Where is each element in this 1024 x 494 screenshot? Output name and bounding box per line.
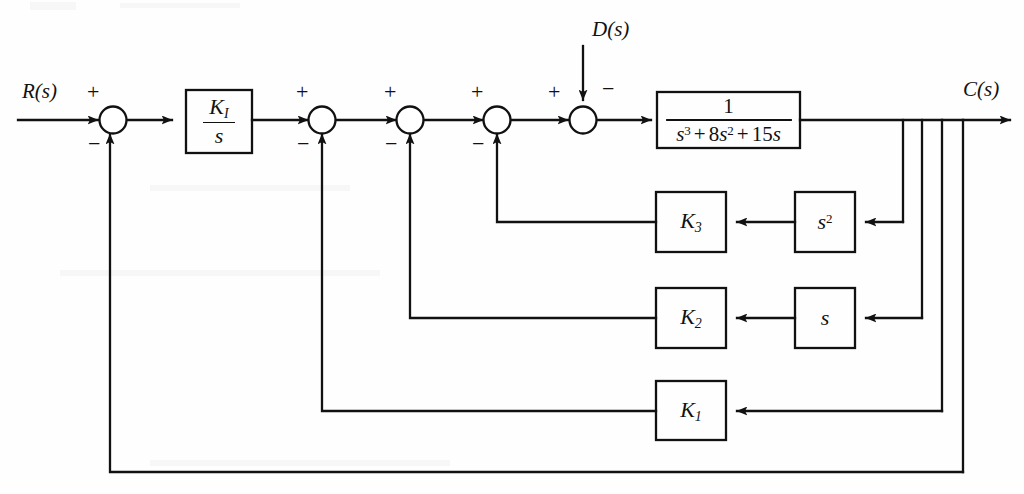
- gain-k2-letter: K: [680, 304, 695, 329]
- block-label-deriv-s: s: [795, 288, 855, 348]
- integral-gain-numerator: K: [209, 94, 224, 119]
- sign-sum3-minus: −: [385, 131, 397, 157]
- block-label-plant-numerator: 1: [657, 93, 800, 120]
- deriv-s2-exponent: 2: [826, 211, 833, 226]
- sign-sum1-plus: +: [87, 79, 99, 105]
- label-output-signal: C(s): [963, 77, 999, 102]
- plant-den-plus2: +: [734, 122, 752, 146]
- deriv-s-letter: s: [821, 305, 830, 330]
- wire-k3-to-sum4: [497, 134, 656, 222]
- summing-junction-1: [100, 107, 127, 134]
- deriv-s2-letter: s: [817, 209, 826, 234]
- block-label-deriv-s2: s2: [795, 192, 855, 252]
- gain-k3-subscript: 3: [695, 220, 702, 235]
- plant-den-coef1: 15: [752, 122, 773, 146]
- plant-den-s3-exp: 3: [684, 122, 691, 137]
- diagram-canvas: [0, 0, 1024, 494]
- summing-junction-5: [570, 107, 597, 134]
- wire-k2-to-sum3: [410, 134, 656, 318]
- label-input-signal: R(s): [22, 79, 57, 104]
- label-disturbance-signal: D(s): [592, 17, 629, 42]
- summing-junction-3: [397, 107, 424, 134]
- plant-den-plus1: +: [691, 122, 709, 146]
- sign-sum2-minus: −: [297, 131, 309, 157]
- sign-sum3-plus: +: [384, 79, 396, 105]
- block-diagram-figure: R(s) C(s) D(s) + − + − + − + − + − KI s …: [0, 0, 1024, 494]
- block-label-gain-k3: K3: [656, 192, 726, 252]
- plant-den-s2-exp: 2: [727, 122, 734, 137]
- plant-numerator-value: 1: [723, 94, 734, 119]
- block-label-plant-denominator: s3+8s2+15s: [657, 120, 800, 148]
- sign-sum5-plus: +: [548, 79, 560, 105]
- sign-sum5-minus: −: [602, 76, 614, 102]
- summing-junction-4: [484, 107, 511, 134]
- sign-sum2-plus: +: [296, 79, 308, 105]
- gain-k3-letter: K: [680, 208, 695, 233]
- integral-gain-subscript: I: [224, 106, 229, 121]
- gain-k1-letter: K: [680, 397, 695, 422]
- sign-sum4-plus: +: [471, 79, 483, 105]
- block-label-integral-gain: KI s: [186, 90, 252, 153]
- sign-sum4-minus: −: [472, 131, 484, 157]
- gain-k1-subscript: 1: [695, 408, 702, 423]
- plant-den-coef2: 8: [709, 122, 720, 146]
- summing-junction-2: [309, 107, 336, 134]
- plant-den-s1: s: [773, 122, 781, 146]
- block-label-gain-k1: K1: [656, 381, 726, 440]
- gain-k2-subscript: 2: [695, 316, 702, 331]
- sign-sum1-minus: −: [88, 131, 100, 157]
- integral-gain-denominator: s: [203, 123, 234, 148]
- wire-k1-to-sum2: [322, 134, 656, 411]
- block-label-gain-k2: K2: [656, 288, 726, 348]
